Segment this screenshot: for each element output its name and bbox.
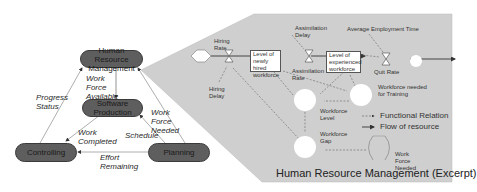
label-schedule: Schedule [125,131,158,140]
label-hiring-rate: Hiring Rate [214,38,234,52]
excerpt-title: Human Resource Management (Excerpt) [276,167,477,179]
label-workforce-needed-training: Workforce needed for Training [378,84,428,98]
label-effort-remaining: Effort Remaining [100,153,138,171]
node-planning: Planning [148,143,210,162]
legend-flow-of-resource: Flow of resource [380,122,439,131]
label-hiring-delay: Hiring Delay [209,86,229,100]
label-average-employment-time: Average Employment Time [347,26,419,33]
workforce-level-circle [294,89,316,111]
sink-cloud [410,55,422,67]
label-workforce-gap: Workforce Gap [320,131,346,145]
label-work-force-available: Work Force Available [86,74,120,101]
label-workforce-level: Workforce Level [320,108,346,122]
label-quit-rate: Quit Rate [374,69,399,76]
workforce-training-circle [350,84,372,106]
label-work-completed: Work Completed [78,128,114,146]
node-software-production: Software Production [82,99,143,117]
workforce-gap-circle [294,136,316,158]
node-controlling: Controlling [15,143,77,162]
stock-level-newly-hired: Level of newly hired workforce [250,50,281,72]
legend-functional-relation: Functional Relation [380,111,448,120]
label-progress-status: Progress Status [36,93,66,111]
node-human-resource-management: Human Resource Management [80,50,143,68]
label-assimilation-rate: Assimilation Rate [292,68,326,82]
label-assimilation-delay: Assimilation Delay [295,25,327,39]
stock-level-experienced: Level of experienced workforce [326,51,361,73]
